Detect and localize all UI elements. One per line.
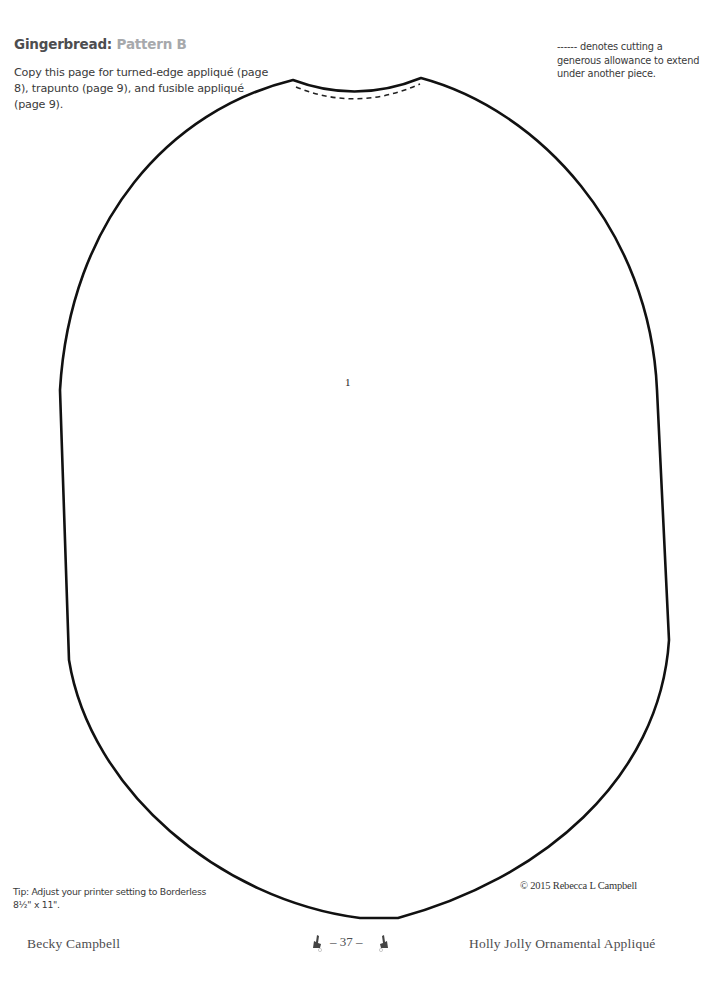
page-number: – 37 – [330,934,363,950]
piece-number: 1 [345,376,351,388]
pattern-outline-path [60,78,669,918]
pattern-piece-outline [0,0,714,991]
footer-author: Becky Campbell [27,936,120,952]
copyright: © 2015 Rebecca L Campbell [520,880,637,891]
printer-tip: Tip: Adjust your printer setting to Bord… [13,885,213,911]
footer-book-title: Holly Jolly Ornamental Appliqué [469,936,656,952]
page-number-block: – 37 – [310,932,391,952]
holly-icon [310,932,324,952]
holly-icon [377,932,391,952]
